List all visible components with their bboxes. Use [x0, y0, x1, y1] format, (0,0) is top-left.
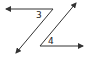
diagram-canvas: 3 4: [0, 0, 88, 60]
angle-diagram: 3 4: [0, 0, 88, 60]
angle-3-label: 3: [36, 10, 42, 20]
angle-4-label: 4: [48, 36, 54, 46]
